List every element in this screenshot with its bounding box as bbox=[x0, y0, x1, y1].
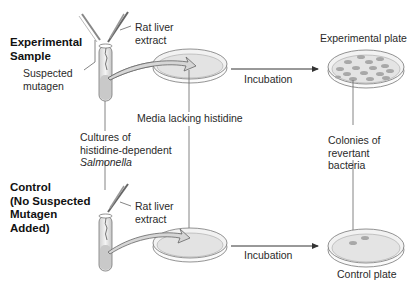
rat-liver-extract-label-control: Rat liver extract bbox=[135, 200, 174, 225]
experimental-sample-title: Experimental Sample bbox=[10, 36, 82, 63]
label-line: extract bbox=[135, 213, 174, 226]
title-line: Control bbox=[10, 181, 91, 195]
title-line: Experimental bbox=[10, 36, 82, 50]
cultures-label: Cultures of histidine-dependent Salmonel… bbox=[80, 131, 172, 169]
title-line: (No Suspected bbox=[10, 195, 91, 209]
control-plate bbox=[328, 229, 404, 267]
title-line: Mutagen bbox=[10, 208, 91, 222]
mutagen-leader bbox=[84, 40, 95, 70]
incubation-label-control: Incubation bbox=[244, 249, 292, 262]
label-line: histidine-dependent bbox=[80, 144, 172, 157]
rat-liver-extract-label-experimental: Rat liver extract bbox=[135, 21, 174, 46]
experimental-plate bbox=[328, 50, 404, 88]
experimental-plate-label: Experimental plate bbox=[320, 32, 407, 45]
label-line: Rat liver bbox=[135, 200, 174, 213]
label-line: bacteria bbox=[328, 159, 381, 172]
label-line: Salmonella bbox=[80, 156, 172, 169]
label-line: Cultures of bbox=[80, 131, 172, 144]
label-line: revertant bbox=[328, 147, 381, 160]
experimental-test-tube bbox=[79, 12, 128, 101]
label-line: mutagen bbox=[23, 80, 73, 93]
title-line: Sample bbox=[10, 50, 82, 64]
title-line: Added) bbox=[10, 222, 91, 236]
incubation-label-experimental: Incubation bbox=[244, 73, 292, 86]
label-line: Colonies of bbox=[328, 134, 381, 147]
control-title: Control (No Suspected Mutagen Added) bbox=[10, 181, 91, 235]
colonies-revertant-label: Colonies of revertant bacteria bbox=[328, 134, 381, 172]
label-line: extract bbox=[135, 34, 174, 47]
suspected-mutagen-label: Suspected mutagen bbox=[23, 67, 73, 92]
label-line: Rat liver bbox=[135, 21, 174, 34]
control-plate-label: Control plate bbox=[337, 268, 397, 281]
media-lacking-histidine-label: Media lacking histidine bbox=[137, 112, 243, 125]
control-test-tube bbox=[99, 184, 128, 271]
label-line: Suspected bbox=[23, 67, 73, 80]
